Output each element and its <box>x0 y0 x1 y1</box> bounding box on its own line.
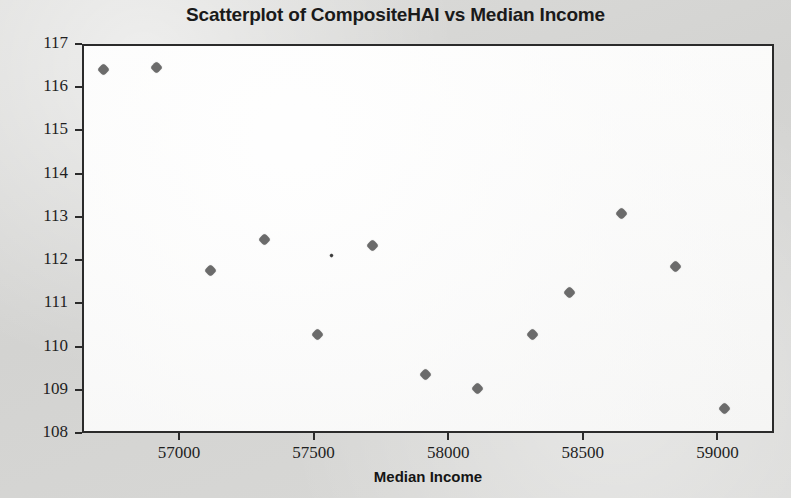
y-axis-tick-label: 115 <box>0 119 68 139</box>
data-point <box>150 61 163 74</box>
data-point <box>526 328 539 341</box>
y-axis-tick-label: 116 <box>0 76 68 96</box>
y-axis-tick-mark <box>75 129 82 131</box>
data-point <box>330 254 334 258</box>
chart-page: Scatterplot of CompositeHAI vs Median In… <box>0 0 791 498</box>
x-axis-tick-label: 58500 <box>533 443 633 463</box>
data-point <box>669 260 682 273</box>
data-point <box>615 207 628 220</box>
data-point <box>718 402 731 415</box>
plot-frame <box>82 44 774 433</box>
data-point <box>563 286 576 299</box>
x-axis-tick-label: 57000 <box>129 443 229 463</box>
data-point <box>204 264 217 277</box>
y-axis-tick-mark <box>75 86 82 88</box>
y-axis-tick-mark <box>75 432 82 434</box>
y-axis-tick-mark <box>75 43 82 45</box>
data-point <box>258 233 271 246</box>
y-axis-tick-mark <box>75 302 82 304</box>
y-axis-tick-label: 108 <box>0 422 68 442</box>
data-point <box>312 328 325 341</box>
data-point <box>366 239 379 252</box>
y-axis-tick-mark <box>75 259 82 261</box>
y-axis-tick-label: 114 <box>0 163 68 183</box>
y-axis-tick-label: 110 <box>0 336 68 356</box>
y-axis-tick-mark <box>75 173 82 175</box>
y-axis-tick-label: 113 <box>0 206 68 226</box>
y-axis-tick-label: 112 <box>0 249 68 269</box>
y-axis-tick-label: 117 <box>0 33 68 53</box>
data-point <box>98 63 111 76</box>
y-axis-tick-mark <box>75 346 82 348</box>
data-point <box>419 368 432 381</box>
y-axis-tick-label: 111 <box>0 292 68 312</box>
data-point <box>472 382 485 395</box>
y-axis-tick-mark <box>75 389 82 391</box>
x-axis-tick-label: 59000 <box>667 443 767 463</box>
y-axis-tick-label: 109 <box>0 379 68 399</box>
x-axis-tick-label: 57500 <box>264 443 364 463</box>
plot-area <box>84 46 776 435</box>
y-axis-tick-mark <box>75 216 82 218</box>
x-axis-tick-label: 58000 <box>398 443 498 463</box>
x-axis-label: Median Income <box>82 468 774 485</box>
